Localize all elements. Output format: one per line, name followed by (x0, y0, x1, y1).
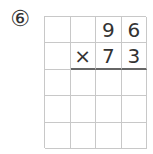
grid-cell: 7 (96, 43, 122, 69)
answer-cell[interactable] (71, 96, 97, 122)
answer-cell[interactable] (71, 123, 97, 149)
answer-cell[interactable] (122, 70, 148, 96)
grid-cell[interactable] (45, 17, 71, 43)
answer-cell[interactable] (45, 70, 71, 96)
grid-cell[interactable] (45, 43, 71, 69)
multiply-sign: × (71, 43, 97, 69)
answer-cell[interactable] (96, 123, 122, 149)
grid-cell: 3 (122, 43, 148, 69)
answer-cell[interactable] (122, 96, 148, 122)
answer-cell[interactable] (96, 96, 122, 122)
grid-cell[interactable] (71, 17, 97, 43)
problem-number: ⑥ (7, 6, 33, 32)
grid-cell: 6 (122, 17, 148, 43)
answer-cell[interactable] (122, 123, 148, 149)
answer-cell[interactable] (45, 123, 71, 149)
answer-cell[interactable] (96, 70, 122, 96)
multiplication-grid: 9 6 × 7 3 (44, 16, 146, 148)
answer-cell[interactable] (71, 70, 97, 96)
grid-cell: 9 (96, 17, 122, 43)
answer-cell[interactable] (45, 96, 71, 122)
